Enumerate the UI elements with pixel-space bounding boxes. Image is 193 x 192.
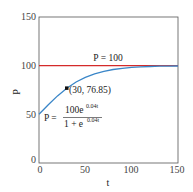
x-axis-label: t (107, 177, 110, 188)
ytick-50: 50 (26, 109, 36, 120)
xtick-150: 150 (170, 164, 185, 175)
equation-den-exponent: 0.04t (87, 117, 100, 123)
equation-lhs: P = (44, 113, 57, 123)
equation-denominator: 1 + e (64, 119, 83, 129)
equation-numerator: 100e (65, 105, 83, 115)
ytick-100: 100 (21, 60, 36, 71)
xtick-100: 100 (124, 164, 139, 175)
point-marker (65, 86, 69, 90)
chart: 150 100 50 0 0 50 100 150 t P P = 100 (3… (0, 0, 193, 192)
asymptote-label: P = 100 (93, 53, 123, 63)
y-axis-label: P (11, 89, 22, 95)
ytick-0: 0 (31, 154, 36, 165)
ytick-150: 150 (21, 11, 36, 22)
equation-num-exponent: 0.04t (86, 103, 99, 109)
point-label: (30, 76.85) (69, 85, 111, 96)
xtick-0: 0 (38, 164, 43, 175)
xtick-50: 50 (80, 164, 90, 175)
